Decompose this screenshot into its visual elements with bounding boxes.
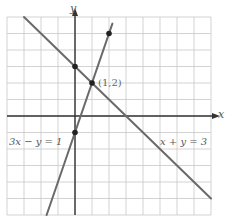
equation-label-3x-minus-y: 3x − y = 1 (9, 136, 63, 147)
point-marker (72, 130, 78, 136)
point-marker (106, 31, 112, 37)
point-marker (89, 80, 95, 86)
x-axis-label: x (218, 108, 225, 121)
intersection-label: (1,2) (98, 77, 122, 88)
coordinate-plane: y x (1,2) 3x − y = 1 x + y = 3 (0, 0, 228, 222)
equation-label-x-plus-y: x + y = 3 (160, 136, 207, 147)
y-axis-label: y (69, 2, 77, 15)
point-marker (72, 64, 78, 70)
line-x-plus-y-eq-3 (24, 17, 211, 199)
axes (7, 8, 220, 215)
line-3x-minus-y-eq-1 (47, 24, 113, 215)
